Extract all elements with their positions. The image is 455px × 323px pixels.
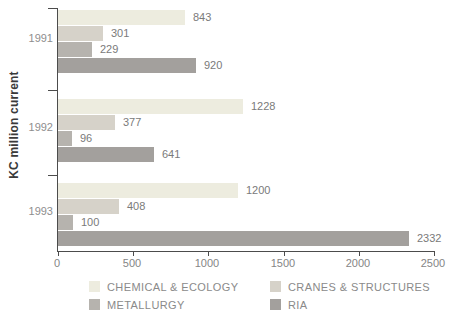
x-axis-tick	[434, 251, 435, 256]
legend: CHEMICAL & ECOLOGYCRANES & STRUCTURESMET…	[89, 280, 430, 311]
y-axis-tick	[48, 8, 57, 9]
legend-item: CHEMICAL & ECOLOGY	[89, 280, 270, 293]
legend-item: METALLURGY	[89, 298, 270, 311]
bar-value-label: 100	[81, 215, 99, 230]
legend-item: RIA	[270, 298, 430, 311]
bar-value-label: 408	[127, 199, 145, 214]
category-label: 1992	[16, 121, 53, 133]
bar-value-label: 2332	[417, 231, 441, 246]
bar-cranes-structures	[58, 115, 115, 130]
bar-chemical-ecology	[58, 183, 238, 198]
x-axis-tick	[208, 251, 209, 256]
x-axis-tick	[58, 251, 59, 256]
x-axis-tick	[133, 251, 134, 256]
legend-swatch	[89, 281, 100, 292]
bar-metallurgy	[58, 215, 73, 230]
bar-chart: KC million current 843301229920122837796…	[0, 0, 455, 323]
x-axis-tick-label: 1500	[261, 257, 305, 269]
x-axis-tick-label: 2000	[336, 257, 380, 269]
plot-area: 84330122992012283779664112004081002332	[57, 8, 434, 252]
bar-cranes-structures	[58, 199, 119, 214]
category-label: 1991	[16, 32, 53, 44]
bar-value-label: 301	[111, 26, 129, 41]
bar-cranes-structures	[58, 26, 103, 41]
x-axis-tick-label: 1000	[185, 257, 229, 269]
bar-value-label: 843	[193, 10, 211, 25]
bar-value-label: 920	[204, 58, 222, 73]
y-axis-tick	[48, 175, 57, 176]
legend-swatch	[270, 299, 281, 310]
bar-chemical-ecology	[58, 10, 185, 25]
legend-item: CRANES & STRUCTURES	[270, 280, 430, 293]
bar-value-label: 229	[100, 42, 118, 57]
category-label: 1993	[16, 205, 53, 217]
x-axis-tick-label: 2500	[411, 257, 455, 269]
bar-value-label: 377	[123, 115, 141, 130]
legend-swatch	[270, 281, 281, 292]
bar-value-label: 96	[80, 131, 92, 146]
legend-label: METALLURGY	[107, 299, 185, 311]
x-axis-tick-label: 500	[110, 257, 154, 269]
bar-metallurgy	[58, 131, 72, 146]
x-axis-tick-label: 0	[35, 257, 79, 269]
bar-ria	[58, 58, 196, 73]
bar-value-label: 1200	[246, 183, 270, 198]
bar-value-label: 641	[162, 147, 180, 162]
legend-label: CHEMICAL & ECOLOGY	[107, 281, 239, 293]
x-axis-tick	[284, 251, 285, 256]
y-axis-tick	[48, 90, 57, 91]
bar-metallurgy	[58, 42, 92, 57]
legend-swatch	[89, 299, 100, 310]
bar-value-label: 1228	[251, 99, 275, 114]
bar-chemical-ecology	[58, 99, 243, 114]
legend-label: CRANES & STRUCTURES	[288, 281, 430, 293]
bar-ria	[58, 147, 154, 162]
x-axis-tick	[359, 251, 360, 256]
legend-label: RIA	[288, 299, 308, 311]
bar-ria	[58, 231, 409, 246]
